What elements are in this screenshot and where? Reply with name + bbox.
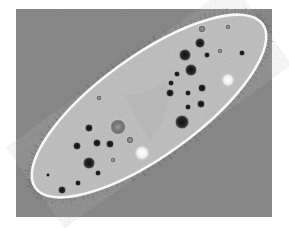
paramecium-micrograph (0, 0, 289, 228)
food-vacuole-dark (197, 100, 205, 108)
food-vacuole-dark (83, 157, 95, 169)
food-vacuole-dark (175, 115, 189, 129)
food-vacuole-light (110, 119, 126, 135)
food-vacuole-dark (46, 173, 50, 177)
food-vacuole-light (225, 24, 231, 30)
food-vacuole-dark (106, 140, 114, 148)
food-vacuole-dark (58, 186, 66, 194)
food-vacuole-dark (166, 89, 174, 97)
food-vacuole-dark (185, 104, 191, 110)
food-vacuole-dark (204, 52, 210, 58)
food-vacuole-light (110, 157, 116, 163)
food-vacuole-dark (179, 49, 191, 61)
food-vacuole-dark (168, 80, 174, 86)
food-vacuole-light (217, 48, 223, 54)
micrograph-canvas (0, 0, 289, 228)
food-vacuole-dark (198, 84, 206, 92)
contractile-vacuole (134, 145, 150, 161)
food-vacuole-dark (95, 170, 101, 176)
contractile-vacuole (221, 73, 235, 87)
food-vacuole-light (198, 25, 206, 33)
food-vacuole-dark (239, 50, 245, 56)
food-vacuole-dark (73, 142, 81, 150)
food-vacuole-dark (85, 124, 93, 132)
food-vacuole-light (96, 95, 102, 101)
food-vacuole-dark (185, 64, 197, 76)
food-vacuole-light (126, 136, 134, 144)
food-vacuole-dark (174, 71, 180, 77)
food-vacuole-dark (75, 180, 81, 186)
food-vacuole-dark (195, 38, 205, 48)
food-vacuole-dark (93, 139, 101, 147)
food-vacuole-dark (185, 90, 191, 96)
